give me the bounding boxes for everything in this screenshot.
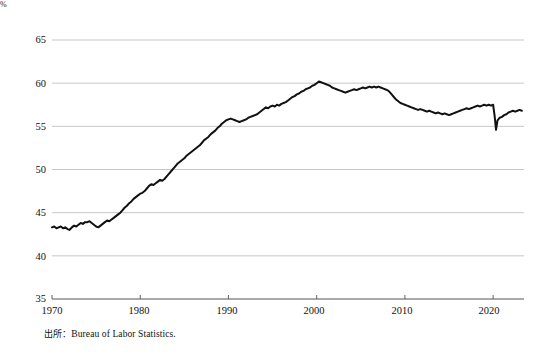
source-note-separator: ： bbox=[62, 329, 71, 339]
source-note-prefix: 出所 bbox=[44, 329, 62, 339]
gridlines-group bbox=[52, 40, 524, 299]
chart-figure: % 65 60 55 50 45 40 35 1970 1980 1990 20… bbox=[0, 0, 551, 355]
source-note: 出所：Bureau of Labor Statistics. bbox=[44, 327, 176, 340]
data-line-labor-force-participation bbox=[52, 81, 522, 229]
x-tick-marks-group bbox=[52, 295, 493, 299]
plot-canvas bbox=[0, 0, 551, 355]
source-note-text: Bureau of Labor Statistics. bbox=[71, 329, 176, 339]
